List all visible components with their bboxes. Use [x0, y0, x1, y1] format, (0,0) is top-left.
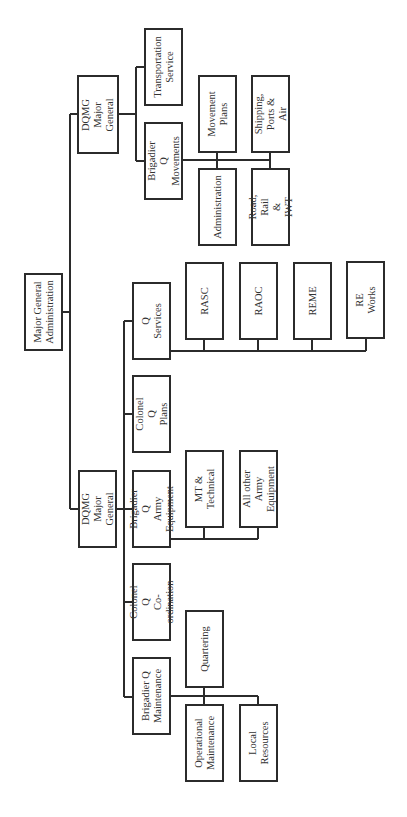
org-node-local-res: Local Resources	[239, 704, 278, 782]
org-node-label: RAOC	[252, 286, 264, 315]
org-node-bq-move: Brigadier Q Movements	[144, 122, 183, 200]
org-node-bq-equip: Brigadier Q Army Equipment	[132, 470, 171, 548]
org-node-dqmg-top: DQMG Major General	[77, 75, 119, 154]
org-node-re-works: RE Works	[346, 261, 385, 339]
org-node-quartering: Quartering	[185, 610, 224, 688]
org-node-bq-maint: Brigadier Q Maintenance	[132, 657, 171, 735]
org-node-cq-coord: Colonel Q Co-ordination	[132, 563, 171, 641]
org-node-label: REME	[306, 286, 318, 315]
org-node-label: Brigadier Q Movements	[145, 136, 181, 186]
org-node-label: Quartering	[198, 626, 210, 671]
org-node-admin: Administration	[198, 168, 237, 246]
org-node-cq-plans: Colonel Q Plans	[132, 375, 171, 453]
org-node-label: Administration	[211, 175, 223, 239]
org-node-rasc: RASC	[185, 262, 224, 340]
org-node-label: Colonel Q Plans	[133, 397, 169, 430]
org-node-label: Operational Maintenance	[192, 716, 216, 770]
org-node-mga: Major General Administration	[24, 273, 63, 351]
org-node-label: Movement Plans	[205, 91, 229, 137]
org-node-label: Road, Rail & IWT	[246, 195, 294, 220]
org-node-label: Shipping, Ports & Air	[252, 94, 288, 135]
org-node-label: Major General Administration	[31, 280, 55, 344]
org-node-label: Brigadier Q Army Equipment	[127, 486, 175, 532]
org-node-all-other: All other Army Equipment	[239, 450, 278, 528]
org-node-shipping: Shipping, Ports & Air	[251, 75, 290, 153]
org-node-label: MT & Technical	[192, 469, 216, 510]
org-node-dqmg-low: DQMG Major General	[78, 470, 117, 548]
org-node-label: Transportation Service	[151, 36, 175, 97]
org-node-label: All other Army Equipment	[240, 466, 276, 512]
org-node-label: Brigadier Q Maintenance	[139, 669, 163, 723]
org-node-label: Q Services	[139, 303, 163, 339]
org-node-raoc: RAOC	[239, 262, 278, 340]
org-node-label: DQMG Major General	[79, 492, 115, 525]
org-node-transport: Transportation Service	[144, 28, 183, 106]
org-node-label: Colonel Q Co-ordination	[127, 580, 175, 623]
org-node-label: RE Works	[353, 286, 377, 313]
org-node-q-services: Q Services	[132, 282, 171, 360]
org-node-op-maint: Operational Maintenance	[185, 704, 224, 782]
org-node-label: RASC	[198, 287, 210, 314]
org-node-mt-tech: MT & Technical	[185, 450, 224, 528]
org-node-move-plans: Movement Plans	[198, 75, 237, 153]
org-node-label: DQMG Major General	[80, 98, 116, 131]
org-node-reme: REME	[293, 262, 332, 340]
org-node-label: Local Resources	[246, 721, 270, 764]
org-node-road-rail: Road, Rail & IWT	[251, 168, 290, 246]
